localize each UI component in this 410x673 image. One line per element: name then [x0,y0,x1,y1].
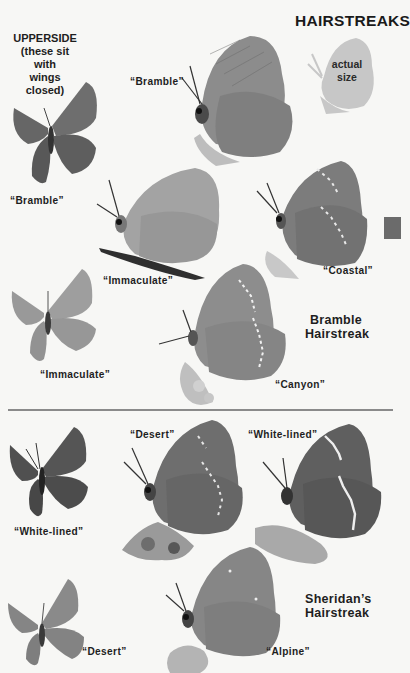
species-name-line2: Hairstreak [305,327,367,341]
actual-size-label: actual size [327,58,367,84]
species-name-line1: Bramble [305,313,367,327]
label-underside-coastal: “Coastal” [323,264,373,276]
label-underside-desert: “Desert” [130,428,175,440]
butterfly-underside-bramble-image [180,34,305,169]
section-thumb-tab [384,217,401,239]
species-name-line1: Sheridan’s [305,592,367,606]
label-upperside-immaculate: “Immaculate” [40,368,110,380]
section-divider [8,409,393,411]
species-name-sheridans-hairstreak: Sheridan’s Hairstreak [305,592,367,620]
label-underside-alpine: “Alpine” [266,645,310,657]
label-underside-bramble: “Bramble” [130,75,184,87]
label-upperside-desert: “Desert” [82,645,127,657]
species-name-line2: Hairstreak [305,606,367,620]
butterfly-upperside-desert-image [4,577,88,667]
butterfly-upperside-immaculate-image [8,265,100,365]
label-upperside-bramble: “Bramble” [10,194,64,206]
label-upperside-white-lined: “White-lined” [14,525,83,537]
actual-size-line1: actual [327,58,367,71]
butterfly-underside-canyon-image [155,262,295,412]
label-underside-canyon: “Canyon” [275,378,325,390]
upperside-heading-line2: (these sit with [10,45,80,71]
butterfly-upperside-bramble-image [8,78,103,188]
page-title: HAIRSTREAKS [295,12,410,30]
label-underside-white-lined: “White-lined” [248,428,317,440]
upperside-heading-line1: UPPERSIDE [10,32,80,45]
species-name-bramble-hairstreak: Bramble Hairstreak [305,313,367,341]
butterfly-upperside-white-lined-image [8,425,93,520]
actual-size-line2: size [327,71,367,84]
